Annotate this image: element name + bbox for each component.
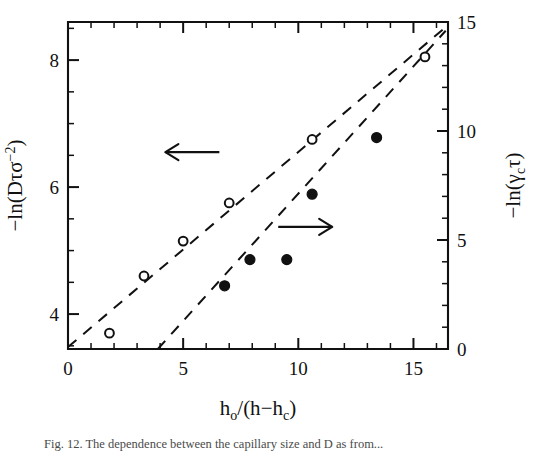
y-axis-left-title: −ln(Dτσ−2) — [3, 139, 27, 231]
axis-tick-labels: 051015468051015 — [50, 12, 477, 379]
x-tick-label: 5 — [178, 358, 188, 379]
data-point-filled — [307, 189, 317, 199]
svg-text:−ln(Dτσ−2): −ln(Dτσ−2) — [3, 139, 27, 231]
data-point-open — [308, 135, 317, 144]
data-point-filled — [372, 133, 382, 143]
data-point-open — [140, 272, 149, 281]
figure-container: 051015468051015 −ln(Dτσ−2)−ln(γcτ)ho/(h−… — [0, 0, 542, 455]
y-right-tick-label: 15 — [457, 12, 476, 33]
data-point-filled — [282, 255, 292, 265]
left-axis-arrow — [165, 144, 219, 160]
data-points — [105, 53, 429, 338]
fit-lines — [68, 27, 446, 349]
data-point-open — [225, 199, 234, 208]
x-tick-label: 15 — [404, 358, 423, 379]
scatter-plot: 051015468051015 −ln(Dτσ−2)−ln(γcτ)ho/(h−… — [0, 0, 542, 432]
svg-text:−ln(γcτ): −ln(γcτ) — [501, 152, 528, 218]
data-point-open — [105, 329, 114, 338]
y-left-tick-label: 8 — [50, 50, 60, 71]
data-point-filled — [245, 255, 255, 265]
fit-line-open-circles — [68, 27, 446, 347]
y-left-tick-label: 4 — [50, 304, 60, 325]
x-axis-title: ho/(h−hc) — [220, 396, 296, 423]
y-right-tick-label: 5 — [457, 230, 467, 251]
y-right-tick-label: 0 — [457, 339, 467, 360]
y-axis-right-title: −ln(γcτ) — [501, 152, 528, 218]
fit-line-filled-circles — [158, 31, 446, 349]
data-point-open — [179, 237, 188, 246]
annotations — [165, 144, 332, 235]
data-point-open — [421, 53, 430, 62]
axis-titles: −ln(Dτσ−2)−ln(γcτ)ho/(h−hc) — [3, 139, 528, 423]
right-axis-arrow — [278, 219, 332, 235]
figure-caption: Fig. 12. The dependence between the capi… — [44, 437, 514, 455]
x-tick-label: 10 — [289, 358, 308, 379]
data-point-filled — [220, 281, 230, 291]
x-tick-label: 0 — [63, 358, 73, 379]
y-left-tick-label: 6 — [50, 177, 60, 198]
y-right-tick-label: 10 — [457, 121, 476, 142]
